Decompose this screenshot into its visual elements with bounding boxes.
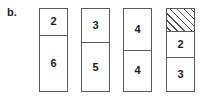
bar-4-segment-3-value: 3: [177, 69, 183, 80]
bar-3-segment-1-value: 4: [134, 24, 140, 35]
bar-2-segment-1-value: 3: [92, 20, 98, 31]
bar-4-segment-1-hatched: [167, 9, 194, 31]
bar-2-segment-1: 3: [82, 9, 109, 42]
bar-2: 3 5: [81, 8, 110, 92]
part-label: b.: [7, 6, 17, 18]
bar-diagram-figure: b. 2 6 3 5 4 4 2 3: [0, 0, 205, 102]
bar-1: 2 6: [39, 8, 68, 92]
bar-4-segment-3: 3: [167, 57, 194, 91]
bar-3-segment-2-value: 4: [134, 65, 140, 76]
bar-1-segment-1-value: 2: [50, 16, 56, 27]
bar-1-segment-1: 2: [40, 9, 67, 35]
bar-3-segment-1: 4: [124, 9, 151, 50]
bar-4-segment-2: 2: [167, 31, 194, 58]
bar-1-segment-2-value: 6: [50, 58, 56, 69]
bar-3: 4 4: [123, 8, 152, 92]
bar-4-segment-2-value: 2: [177, 39, 183, 50]
bar-3-segment-2: 4: [124, 50, 151, 92]
bar-2-segment-2: 5: [82, 42, 109, 91]
bar-4: 2 3: [166, 8, 195, 92]
bar-1-segment-2: 6: [40, 35, 67, 91]
bar-2-segment-2-value: 5: [92, 62, 98, 73]
